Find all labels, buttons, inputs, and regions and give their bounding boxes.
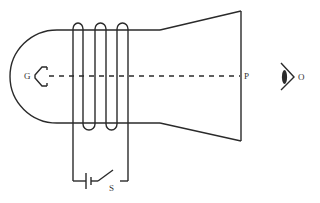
switch-blade — [98, 170, 113, 181]
label-gun: G — [24, 71, 31, 81]
label-switch: S — [109, 183, 114, 193]
coil — [73, 23, 128, 181]
tube-body — [10, 11, 241, 141]
label-observer: O — [298, 72, 305, 82]
crt-diagram: G P S O — [0, 0, 320, 203]
tube-flare-bottom — [160, 123, 241, 141]
circuit — [73, 170, 128, 189]
label-screen-point: P — [244, 71, 249, 81]
electron-gun-icon — [35, 67, 47, 86]
tube-flare-top — [160, 11, 241, 30]
eye-icon — [281, 63, 294, 90]
